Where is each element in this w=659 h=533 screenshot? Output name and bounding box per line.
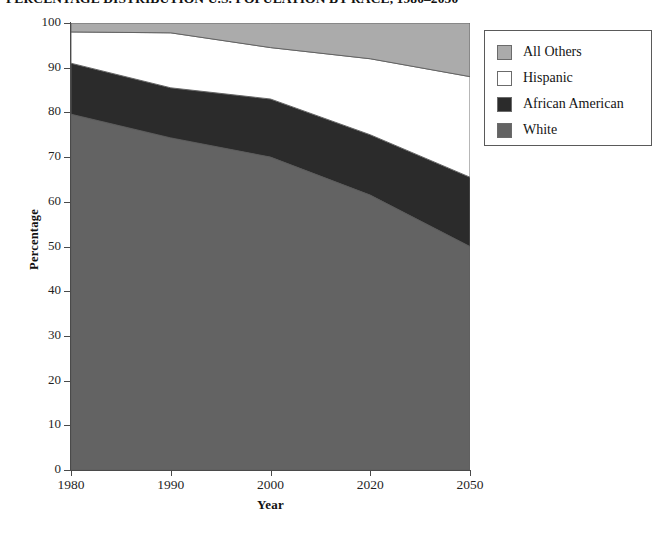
chart-title: PERCENTAGE DISTRIBUTION U.S. POPULATION … [6, 0, 526, 5]
x-tick-label: 1980 [36, 477, 106, 493]
y-tick-mark [64, 291, 71, 292]
y-tick-mark [64, 381, 71, 382]
x-tick-mark [71, 470, 72, 476]
legend-label: All Others [523, 44, 582, 60]
y-tick-label-wrap: 70 [31, 148, 61, 164]
y-tick-mark [64, 157, 71, 158]
y-tick-mark [64, 336, 71, 337]
y-tick-mark [64, 202, 71, 203]
legend-label: White [523, 122, 557, 138]
y-tick-label-wrap: 90 [31, 59, 61, 75]
legend-item-all-others[interactable]: All Others [497, 39, 651, 65]
chart-legend: All OthersHispanicAfrican AmericanWhite [484, 30, 652, 146]
legend-swatch-icon [497, 123, 512, 138]
legend-label: African American [523, 96, 624, 112]
y-tick-label-wrap: 0 [31, 461, 61, 477]
x-tick-mark [271, 470, 272, 476]
legend-item-hispanic[interactable]: Hispanic [497, 65, 651, 91]
y-tick-label-wrap: 80 [31, 103, 61, 119]
plot-area [71, 23, 470, 470]
y-tick-label: 20 [31, 372, 61, 388]
y-tick-label: 0 [31, 461, 61, 477]
y-tick-label-wrap: 100 [31, 14, 61, 30]
x-tick-mark [470, 470, 471, 476]
x-tick-label: 1990 [136, 477, 206, 493]
stacked-area-svg [71, 23, 470, 470]
x-tick-label: 2020 [335, 477, 405, 493]
chart-figure: PERCENTAGE DISTRIBUTION U.S. POPULATION … [0, 0, 659, 533]
legend-swatch-icon [497, 71, 512, 86]
x-tick-mark [171, 470, 172, 476]
y-tick-label: 30 [31, 327, 61, 343]
legend-label: Hispanic [523, 70, 573, 86]
y-tick-label: 10 [31, 416, 61, 432]
x-axis-title: Year [71, 497, 470, 513]
y-tick-label: 70 [31, 148, 61, 164]
y-axis-title: Percentage [27, 180, 42, 300]
x-tick-label: 2050 [435, 477, 505, 493]
x-tick-label: 2000 [236, 477, 306, 493]
legend-item-white[interactable]: White [497, 117, 651, 143]
y-tick-label-wrap: 10 [31, 416, 61, 432]
y-tick-label: 100 [31, 14, 61, 30]
y-tick-label: 80 [31, 103, 61, 119]
legend-swatch-icon [497, 97, 512, 112]
y-tick-label-wrap: 30 [31, 327, 61, 343]
y-tick-mark [64, 247, 71, 248]
y-tick-mark [64, 470, 71, 471]
legend-swatch-icon [497, 45, 512, 60]
y-tick-label-wrap: 20 [31, 372, 61, 388]
legend-item-african-american[interactable]: African American [497, 91, 651, 117]
y-tick-label: 90 [31, 59, 61, 75]
x-tick-mark [370, 470, 371, 476]
y-tick-mark [64, 23, 71, 24]
y-tick-mark [64, 68, 71, 69]
y-tick-mark [64, 112, 71, 113]
y-tick-mark [64, 425, 71, 426]
